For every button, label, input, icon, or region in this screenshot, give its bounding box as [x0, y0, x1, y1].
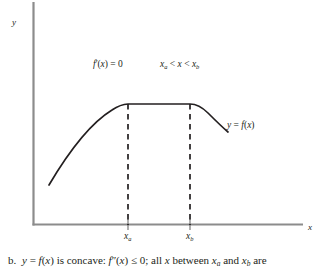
plot-svg [0, 0, 322, 246]
figure-panel: y x f′(x) = 0 xa < x < xb y = f(x) xa xb [0, 0, 322, 246]
annotation-interval: xa < x < xb [160, 60, 199, 70]
figure-caption: b. y = f(x) is concave: f″(x) ≤ 0; all x… [8, 254, 322, 267]
x-axis-label: x [308, 223, 312, 232]
annotation-derivative-zero: f′(x) = 0 [93, 60, 123, 70]
tick-label-xa: xa [124, 232, 131, 242]
curve-label: y = f(x) [227, 121, 255, 131]
caption-letter: b. [8, 254, 16, 266]
tick-label-xb: xb [186, 232, 193, 242]
y-axis-label: y [12, 18, 16, 27]
caption-text: y = f(x) is concave: f″(x) ≤ 0; all x be… [22, 254, 267, 266]
function-curve [49, 104, 228, 185]
